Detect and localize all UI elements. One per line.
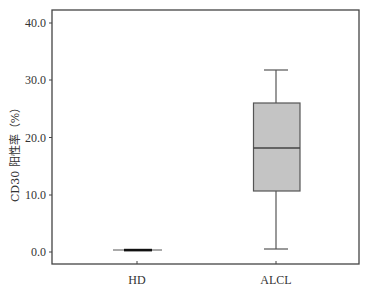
y-tick-label: 0.0 [31, 245, 46, 259]
y-axis-title: CD30 阳性率（%） [8, 102, 22, 202]
y-tick-label: 10.0 [25, 188, 46, 202]
y-tick-label: 40.0 [25, 16, 46, 30]
plot-frame [52, 10, 359, 264]
iqr-box-alcl [254, 103, 301, 191]
box-hd [113, 249, 162, 252]
y-tick-label: 30.0 [25, 73, 46, 87]
box-alcl [254, 70, 301, 249]
x-category-label-alcl: ALCL [260, 273, 291, 287]
x-category-label-hd: HD [128, 273, 146, 287]
iqr-box-hd [124, 249, 152, 252]
box-plot: 0.0 10.0 20.0 30.0 40.0 CD30 阳性率（%） HD A… [0, 0, 366, 293]
y-tick-label: 20.0 [25, 131, 46, 145]
